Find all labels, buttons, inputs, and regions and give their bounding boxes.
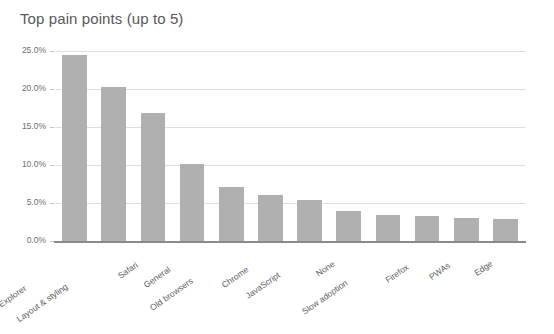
x-axis-tick-label: Firefox bbox=[384, 262, 411, 285]
bar[interactable] bbox=[180, 164, 205, 241]
x-axis-tick-label: Safari bbox=[116, 260, 140, 281]
y-axis-tick-mark bbox=[50, 127, 54, 128]
y-axis-tick-label: 5.0% bbox=[2, 197, 46, 207]
y-axis-tick-label: 25.0% bbox=[2, 45, 46, 55]
x-axis-tick-label: Slow adoption bbox=[299, 278, 348, 317]
y-axis-tick-mark bbox=[50, 51, 54, 52]
y-axis-tick-mark bbox=[50, 203, 54, 204]
y-axis-tick-mark bbox=[50, 165, 54, 166]
x-axis-tick: General bbox=[190, 247, 191, 248]
x-axis-tick-label: None bbox=[314, 259, 336, 279]
x-axis-tick-label: PWAs bbox=[427, 260, 452, 282]
x-axis-tick: Safari bbox=[151, 247, 152, 248]
bar[interactable] bbox=[101, 87, 126, 241]
x-axis-tick: PWAs bbox=[464, 247, 465, 248]
bar[interactable] bbox=[454, 218, 479, 241]
x-axis-tick-label: Chrome bbox=[220, 264, 251, 290]
bar-chart: Top pain points (up to 5) 25.0%20.0%15.0… bbox=[0, 0, 554, 334]
x-axis-tick: Chrome bbox=[268, 247, 269, 248]
bar[interactable] bbox=[493, 219, 518, 241]
y-axis-tick-label: 15.0% bbox=[2, 121, 46, 131]
x-axis-tick: Slow adoption bbox=[386, 247, 387, 248]
x-axis-tick: Internet Explorer bbox=[73, 247, 74, 248]
bar[interactable] bbox=[141, 113, 166, 241]
bar[interactable] bbox=[258, 195, 283, 241]
bar[interactable] bbox=[219, 187, 244, 241]
bar[interactable] bbox=[336, 211, 361, 241]
x-axis-baseline bbox=[54, 241, 526, 243]
plot-area bbox=[55, 51, 525, 241]
y-axis-tick-label: 20.0% bbox=[2, 83, 46, 93]
gridline bbox=[55, 51, 525, 52]
x-axis-tick: None bbox=[347, 247, 348, 248]
x-axis-tick: Old browsers bbox=[229, 247, 230, 248]
x-axis-tick: Layout & styling bbox=[112, 247, 113, 248]
x-axis-tick-label: Edge bbox=[472, 258, 494, 278]
bar[interactable] bbox=[415, 216, 440, 241]
x-axis-tick-label: JavaScript bbox=[244, 270, 282, 301]
y-axis-tick-label: 10.0% bbox=[2, 159, 46, 169]
bar[interactable] bbox=[62, 55, 87, 241]
bar[interactable] bbox=[376, 215, 401, 241]
y-axis-tick-label: 0.0% bbox=[2, 235, 46, 245]
x-axis-tick-label: General bbox=[142, 264, 173, 290]
x-axis-tick: Firefox bbox=[425, 247, 426, 248]
page-title: Top pain points (up to 5) bbox=[20, 10, 183, 27]
x-axis-tick: JavaScript bbox=[308, 247, 309, 248]
bar[interactable] bbox=[297, 200, 322, 241]
x-axis-tick: Edge bbox=[503, 247, 504, 248]
y-axis-tick-mark bbox=[50, 89, 54, 90]
